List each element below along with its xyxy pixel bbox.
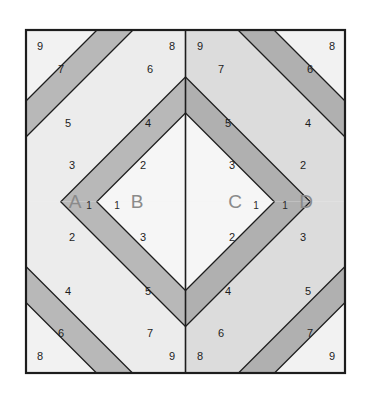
- strip-label: 3: [300, 231, 306, 243]
- strip-label: 3: [140, 231, 146, 243]
- strip-label: 4: [305, 117, 311, 129]
- strip-label: 7: [218, 63, 224, 75]
- quilt-diagram: 9 7 5 3 8 6 4 2 9 7 5 3 8 6 4 2 2 4 6 8 …: [0, 0, 371, 397]
- strip-label: 9: [197, 40, 203, 52]
- strip-label: 8: [197, 350, 203, 362]
- strip-label: 8: [329, 40, 335, 52]
- strip-label: 5: [145, 285, 151, 297]
- strip-label: 5: [305, 285, 311, 297]
- unit-one-b: 1: [114, 200, 120, 211]
- strip-label: 7: [307, 327, 313, 339]
- strip-label: 5: [225, 117, 231, 129]
- unit-one-d: 1: [282, 200, 288, 211]
- unit-one-c: 1: [253, 200, 259, 211]
- unit-letter-c: C: [228, 191, 242, 212]
- unit-letter-a: A: [69, 191, 82, 212]
- unit-one-a: 1: [86, 200, 92, 211]
- strip-label: 3: [69, 159, 75, 171]
- strip-label: 9: [169, 350, 175, 362]
- strip-label: 2: [229, 231, 235, 243]
- strip-label: 7: [58, 63, 64, 75]
- strip-label: 6: [307, 63, 313, 75]
- strip-label: 8: [169, 40, 175, 52]
- strip-label: 4: [225, 285, 231, 297]
- strip-label: 5: [65, 117, 71, 129]
- strip-label: 8: [37, 350, 43, 362]
- strip-label: 7: [147, 327, 153, 339]
- unit-letter-b: B: [131, 191, 144, 212]
- strip-label: 4: [65, 285, 71, 297]
- strip-label: 2: [300, 159, 306, 171]
- strip-label: 9: [329, 350, 335, 362]
- strip-label: 3: [229, 159, 235, 171]
- unit-letter-d: D: [299, 191, 313, 212]
- strip-label: 6: [218, 327, 224, 339]
- strip-label: 6: [147, 63, 153, 75]
- strip-label: 9: [37, 40, 43, 52]
- quilt-block-svg: 9 7 5 3 8 6 4 2 9 7 5 3 8 6 4 2 2 4 6 8 …: [0, 0, 371, 397]
- strip-label: 4: [145, 117, 151, 129]
- strip-label: 2: [69, 231, 75, 243]
- strip-label: 6: [58, 327, 64, 339]
- strip-label: 2: [140, 159, 146, 171]
